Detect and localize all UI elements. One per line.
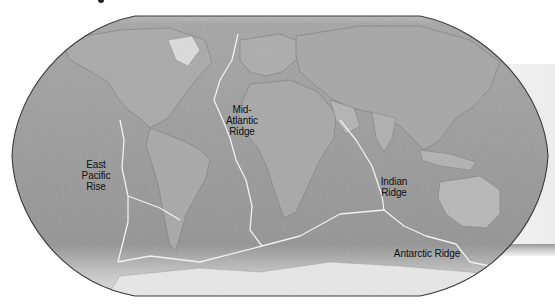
label-line: Rise — [76, 181, 116, 192]
label-line: Mid- — [222, 104, 262, 115]
world-map — [0, 0, 555, 306]
label-east-pacific-rise: East Pacific Rise — [76, 159, 116, 192]
label-antarctic-ridge: Antarctic Ridge — [382, 248, 472, 259]
label-line: East — [76, 159, 116, 170]
label-mid-atlantic-ridge: Mid- Atlantic Ridge — [222, 104, 262, 137]
label-line: Atlantic — [222, 115, 262, 126]
label-line: Antarctic Ridge — [382, 248, 472, 259]
label-line: Ridge — [222, 126, 262, 137]
label-line: Indian — [376, 176, 412, 187]
label-line: Pacific — [76, 170, 116, 181]
relief-texture — [0, 0, 555, 306]
label-line: Ridge — [376, 187, 412, 198]
label-indian-ridge: Indian Ridge — [376, 176, 412, 198]
